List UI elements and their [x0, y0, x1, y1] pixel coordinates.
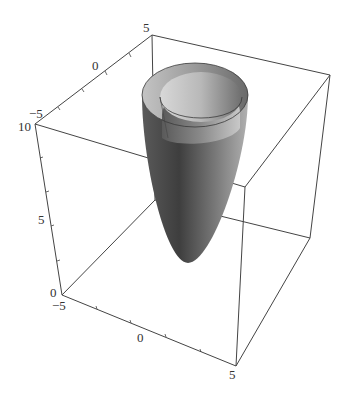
z-axis-tick-5: 5 [38, 212, 45, 227]
paraboloid-surface [142, 63, 248, 263]
top-axis-tick-0: 0 [92, 58, 99, 73]
bottom-axis-tick-minus5: −5 [52, 298, 66, 313]
top-axis-tick-minus5: −5 [29, 106, 43, 121]
3d-plot: −5 0 5 10 5 0 −5 0 5 [0, 0, 349, 400]
bottom-axis-labels: −5 0 5 [52, 298, 236, 382]
bottom-axis-tick-5: 5 [229, 367, 236, 382]
bottom-axis-tick-0: 0 [137, 330, 144, 345]
z-axis-tick-10: 10 [18, 119, 31, 134]
z-axis-labels: 10 5 0 [18, 119, 57, 300]
top-axis-labels: −5 0 5 [29, 20, 150, 121]
top-axis-tick-5: 5 [143, 20, 150, 35]
